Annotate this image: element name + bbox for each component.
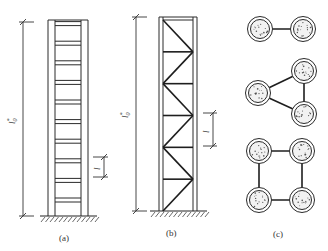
panel-length-dimension-a — [93, 154, 108, 180]
ground-support-b — [150, 211, 209, 217]
limb-circle — [248, 17, 273, 42]
hatch-mark — [174, 212, 178, 217]
limb-circle — [246, 81, 271, 106]
lacing-diagonal — [163, 147, 193, 179]
lacing-diagonal — [163, 179, 193, 211]
battens-a — [55, 22, 81, 202]
section-three-limb — [246, 59, 317, 127]
hatch-mark — [165, 212, 169, 217]
overall-length-label-b: l0* — [119, 112, 131, 118]
hatch-mark — [156, 212, 160, 217]
limb-circle — [247, 188, 272, 213]
hatch-mark — [178, 212, 182, 217]
lacing-b — [163, 20, 193, 211]
column-diagram: l0* l (a) — [0, 0, 328, 251]
hatch-mark — [73, 217, 77, 222]
limb-circle — [290, 188, 315, 213]
section-two-limb — [248, 17, 316, 42]
caption-b: (b) — [166, 228, 177, 238]
hatch-mark — [205, 212, 209, 217]
hatch-mark — [169, 212, 173, 217]
limb-circle — [291, 17, 316, 42]
hatch-mark — [68, 217, 72, 222]
lacing-diagonal — [163, 52, 193, 84]
overall-length-dimension-a — [19, 19, 34, 219]
hatch-mark — [46, 217, 50, 222]
panel-b: l0* l (b) — [119, 14, 217, 238]
batten — [55, 80, 81, 84]
hatch-mark — [192, 212, 196, 217]
batten — [55, 61, 81, 65]
hatch-mark — [77, 217, 81, 222]
panel-c: (c) — [246, 17, 317, 240]
hatch-mark — [91, 217, 95, 222]
batten — [55, 178, 81, 182]
panel-length-label-b: l — [201, 130, 211, 133]
hatch-mark — [201, 212, 205, 217]
panel-length-dimension-b — [203, 110, 217, 149]
hatch-mark — [151, 212, 155, 217]
hatch-mark — [64, 217, 68, 222]
hatch-mark — [196, 212, 200, 217]
overall-length-dimension-b — [132, 14, 147, 214]
hatch-mark — [82, 217, 86, 222]
batten — [55, 41, 81, 45]
limb-circle — [292, 102, 317, 127]
caption-c: (c) — [273, 229, 283, 239]
overall-length-label-a: l0* — [6, 118, 18, 124]
limb-circle — [290, 139, 315, 164]
hatch-mark — [59, 217, 63, 222]
limb-circle — [247, 139, 272, 164]
batten — [55, 198, 81, 202]
batten — [55, 139, 81, 143]
panel-length-label-a: l — [92, 167, 102, 170]
batten — [55, 100, 81, 104]
ground-support-a — [40, 216, 99, 222]
hatch-mark — [86, 217, 90, 222]
hatch-mark — [41, 217, 45, 222]
section-four-limb — [247, 139, 315, 213]
column-limbs-a — [48, 20, 88, 216]
hatch-mark — [95, 217, 99, 222]
limb-circle — [292, 59, 317, 84]
batten — [55, 159, 81, 163]
lacing-diagonal — [163, 20, 193, 52]
hatch-mark — [187, 212, 191, 217]
panel-a: l0* l (a) — [6, 19, 108, 243]
lacing-diagonal — [163, 84, 193, 116]
batten — [55, 22, 81, 26]
hatch-mark — [55, 217, 59, 222]
caption-a: (a) — [59, 233, 69, 243]
hatch-mark — [160, 212, 164, 217]
batten — [55, 120, 81, 124]
hatch-mark — [50, 217, 54, 222]
hatch-mark — [183, 212, 187, 217]
lacing-diagonal — [163, 116, 193, 148]
